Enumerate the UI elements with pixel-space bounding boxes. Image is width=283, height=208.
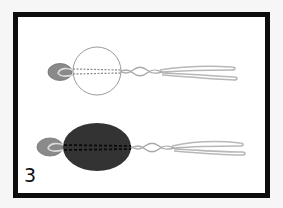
bottom-assembly xyxy=(37,123,245,171)
top-assembly xyxy=(48,47,237,95)
bottom-wire-loop xyxy=(172,142,245,155)
bottom-small-bead xyxy=(37,138,63,156)
step-number: 3 xyxy=(24,166,36,185)
top-small-bead xyxy=(48,64,72,81)
bottom-wire-twist xyxy=(130,143,174,152)
top-wire-twist xyxy=(118,67,162,76)
bottom-large-bead-filled xyxy=(63,123,131,171)
bead-diagram xyxy=(0,0,283,208)
top-large-bead-outline xyxy=(73,47,121,95)
top-wire-loop xyxy=(160,66,237,80)
